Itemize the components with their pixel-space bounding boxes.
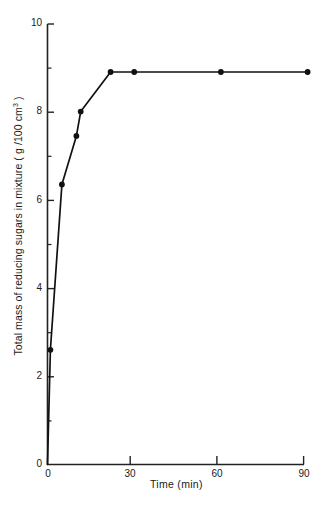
axis-lines (47, 24, 304, 465)
data-point (131, 69, 137, 75)
data-line-series-0 (48, 72, 308, 465)
chart-plot-area (0, 0, 322, 513)
chart-figure: Total mass of reducing sugars in mixture… (0, 0, 322, 513)
data-point (108, 69, 114, 75)
data-point (305, 69, 311, 75)
data-point (74, 133, 80, 139)
data-point (48, 347, 54, 353)
data-point (78, 109, 84, 115)
data-point (218, 69, 224, 75)
x-axis-ticks (130, 456, 303, 465)
data-point-markers (48, 69, 311, 353)
data-point (59, 182, 65, 188)
